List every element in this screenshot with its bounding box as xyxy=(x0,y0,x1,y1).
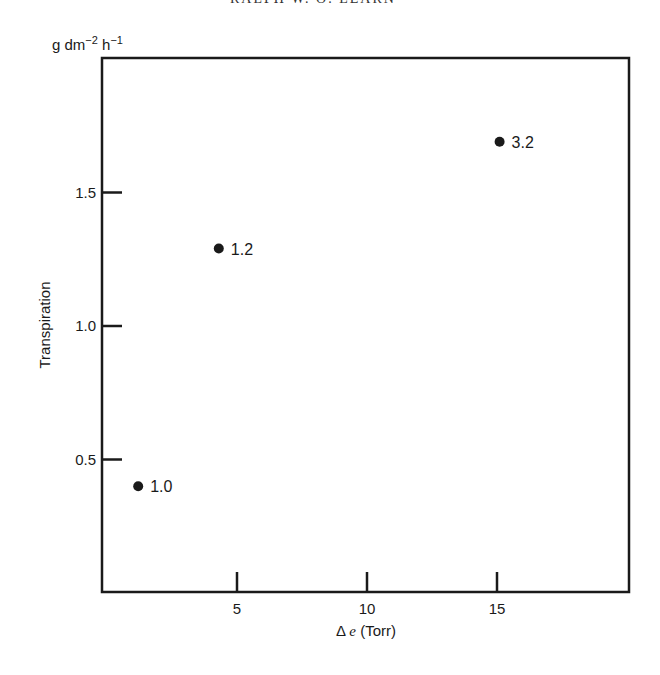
y-axis-ticks: 0.51.01.5 xyxy=(75,184,122,468)
y-tick-label: 1.0 xyxy=(75,317,96,334)
y-axis-title: Transpiration xyxy=(36,282,53,369)
plot-frame xyxy=(102,58,629,592)
x-tick-label: 10 xyxy=(359,600,376,617)
x-tick-label: 15 xyxy=(489,600,506,617)
y-tick-label: 1.5 xyxy=(75,184,96,201)
data-point-label: 1.0 xyxy=(150,478,172,495)
data-point xyxy=(495,137,505,147)
data-points: 1.01.23.2 xyxy=(133,134,534,495)
x-axis-ticks: 51015 xyxy=(233,572,506,617)
y-tick-label: 0.5 xyxy=(75,451,96,468)
data-point-label: 3.2 xyxy=(512,134,534,151)
data-point xyxy=(214,244,224,254)
x-tick-label: 5 xyxy=(233,600,241,617)
x-axis-title: Δ e (Torr) xyxy=(336,622,396,639)
data-point xyxy=(133,481,143,491)
data-point-label: 1.2 xyxy=(231,241,253,258)
scatter-chart: 0.51.01.5 51015 1.01.23.2 Transpiration … xyxy=(0,0,660,675)
